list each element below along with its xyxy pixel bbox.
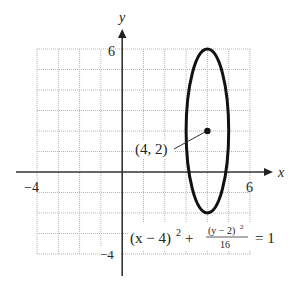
center-leader-line <box>174 132 205 149</box>
eq-exp1: 2 <box>176 227 181 238</box>
center-label: (4, 2) <box>135 141 168 158</box>
eq-exp2: 2 <box>240 223 244 231</box>
y-tick-6: 6 <box>108 44 115 59</box>
equation-label: (x − 4) 2 + (y − 2) 2 16 = 1 <box>128 222 275 250</box>
y-axis-arrow-icon <box>118 29 126 38</box>
eq-denominator: 16 <box>220 239 230 250</box>
y-axis-label: y <box>117 10 126 25</box>
ellipse-graph: y x 6 −4 6 −4 (4, 2) (x − 4) 2 + (y − 2)… <box>0 0 291 289</box>
y-tick-neg4: −4 <box>100 247 114 262</box>
x-axis-arrow-icon <box>264 168 273 176</box>
eq-numerator: (y − 2) <box>208 225 235 237</box>
eq-plus: + <box>185 230 193 246</box>
x-tick-neg4: −4 <box>24 180 39 195</box>
x-axis-label: x <box>277 165 285 180</box>
eq-left: (x − 4) <box>130 230 171 247</box>
x-tick-6: 6 <box>246 180 253 195</box>
eq-rhs: = 1 <box>255 230 275 246</box>
center-point <box>204 128 210 134</box>
